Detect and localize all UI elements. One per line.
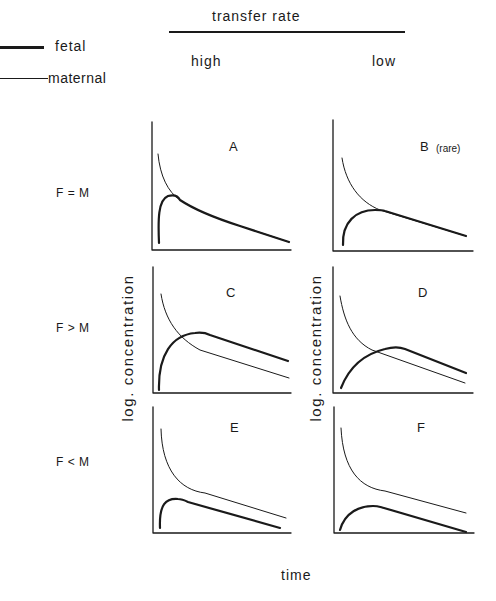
panel-b-fetal-curve	[343, 210, 466, 245]
panel-d-fetal-curve	[341, 348, 466, 389]
panel-c-fetal-curve	[159, 333, 288, 390]
panel-f	[334, 407, 474, 533]
panel-b	[333, 120, 473, 251]
panel-f-maternal-curve	[341, 428, 466, 513]
panel-f-fetal-curve	[340, 506, 466, 532]
plots-canvas	[0, 0, 496, 601]
panel-e	[153, 407, 291, 533]
panel-d-maternal-curve	[340, 296, 465, 383]
panel-c-axes	[153, 267, 291, 393]
panel-e-axes	[153, 407, 291, 533]
panel-a-fetal-curve	[159, 195, 289, 243]
panel-b-maternal-curve	[342, 158, 466, 236]
panel-c	[153, 267, 291, 393]
panel-a	[152, 122, 291, 250]
panel-e-fetal-curve	[160, 499, 280, 528]
panel-a-axes	[152, 122, 291, 250]
panel-e-maternal-curve	[161, 429, 286, 518]
panel-d-axes	[333, 267, 473, 393]
panel-d	[333, 267, 473, 393]
panel-c-maternal-curve	[161, 294, 289, 378]
